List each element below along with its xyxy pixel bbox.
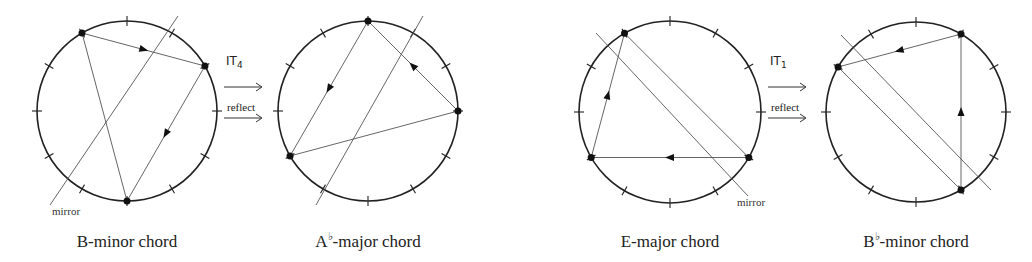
transform-label: IT4 xyxy=(226,54,243,70)
chord-caption: E-major chord xyxy=(621,230,720,252)
tick-mark xyxy=(713,186,718,195)
tick-mark xyxy=(442,64,451,69)
pitch-node xyxy=(79,30,86,37)
chord-edge xyxy=(625,33,749,157)
direction-arrow-icon xyxy=(958,107,965,116)
tick-mark xyxy=(411,185,416,194)
tick-mark xyxy=(442,154,451,159)
direction-arrow-icon xyxy=(160,128,171,139)
direction-arrow-icon xyxy=(139,45,150,54)
caption-text: -minor chord xyxy=(880,232,969,251)
pitch-node xyxy=(201,63,208,70)
chord-caption: B♭-minor chord xyxy=(863,230,969,252)
chord-caption: A♭-major chord xyxy=(315,230,421,252)
transform-index: 1 xyxy=(781,60,787,70)
tick-mark xyxy=(713,29,718,38)
direction-arrow-icon xyxy=(603,90,612,101)
tick-mark xyxy=(869,30,874,39)
tick-mark xyxy=(170,185,175,194)
chord-edge xyxy=(838,67,961,190)
tick-mark xyxy=(990,155,999,160)
transform-index: 4 xyxy=(237,60,243,70)
tick-mark xyxy=(170,29,175,38)
reflect-label: reflect xyxy=(771,101,799,113)
pitch-node xyxy=(745,154,752,161)
pitch-node xyxy=(124,198,131,205)
pitch-node xyxy=(958,31,965,38)
caption-text: -major chord xyxy=(631,232,719,251)
chord-edge xyxy=(82,33,127,201)
pitch-node xyxy=(958,186,965,193)
pitch-node xyxy=(287,153,294,160)
pitch-node xyxy=(455,108,462,115)
mirror-line xyxy=(316,16,423,205)
tick-mark xyxy=(45,64,54,69)
pitch-node xyxy=(835,64,842,71)
tick-mark xyxy=(990,65,999,70)
pitch-clock-circle xyxy=(37,21,217,201)
mirror-line xyxy=(50,16,178,205)
caption-root: B xyxy=(77,232,88,251)
tick-mark xyxy=(587,64,596,69)
caption-text: -major chord xyxy=(333,232,421,251)
transform-label: IT1 xyxy=(770,54,787,70)
pitch-node xyxy=(621,30,628,37)
direction-arrow-icon xyxy=(665,154,674,161)
pitch-clock-circle xyxy=(278,21,458,201)
caption-text: -minor chord xyxy=(88,232,177,251)
tick-mark xyxy=(45,154,54,159)
chord-caption: B-minor chord xyxy=(77,230,178,252)
chord-edge xyxy=(290,111,458,156)
tick-mark xyxy=(744,64,753,69)
caption-root: E xyxy=(621,232,631,251)
reflect-label: reflect xyxy=(227,101,255,113)
tick-mark xyxy=(869,186,874,195)
chord-diagram-canvas xyxy=(0,0,1032,262)
tick-mark xyxy=(80,185,85,194)
pitch-node xyxy=(588,154,595,161)
direction-arrow-icon xyxy=(894,46,905,55)
tick-mark xyxy=(622,186,627,195)
caption-root: B xyxy=(863,232,874,251)
transform-name: IT xyxy=(770,54,781,68)
mirror-label: mirror xyxy=(52,205,80,217)
tick-mark xyxy=(834,155,843,160)
tick-mark xyxy=(286,64,295,69)
pitch-node xyxy=(365,18,372,25)
mirror-line xyxy=(841,35,991,190)
mirror-line xyxy=(596,33,748,196)
caption-root: A xyxy=(315,232,327,251)
mirror-label: mirror xyxy=(737,196,765,208)
tick-mark xyxy=(201,154,210,159)
transform-name: IT xyxy=(226,54,237,68)
tick-mark xyxy=(321,29,326,38)
direction-arrow-icon xyxy=(323,83,334,94)
